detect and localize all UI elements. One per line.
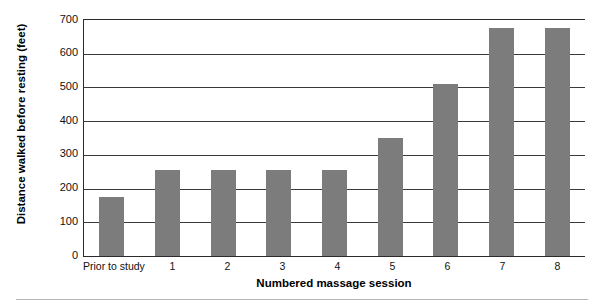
y-tick-label: 200 [30,182,78,193]
bar-slot [84,20,140,256]
x-tick-label: 1 [145,260,200,272]
bar [155,170,180,256]
y-tick-label: 600 [30,47,78,58]
bar-slot [140,20,196,256]
bottom-divider [16,299,588,300]
x-tick-label: Prior to study [83,260,145,272]
bar-series [84,20,585,256]
bar [433,84,458,256]
y-axis-title: Distance walked before resting (feet) [15,0,27,249]
x-tick-label: 5 [365,260,420,272]
x-tick-label: 8 [530,260,585,272]
bar [266,170,291,256]
x-axis-tick-labels: Prior to study12345678 [83,260,585,272]
y-axis-tick-labels: 0100200300400500600700 [30,0,78,306]
bar-slot [362,20,418,256]
x-tick-label: 6 [420,260,475,272]
x-tick-label: 2 [200,260,255,272]
bar [99,197,124,256]
y-tick-label: 300 [30,148,78,159]
bar [211,170,236,256]
bar-slot [529,20,585,256]
bar-chart-figure: Distance walked before resting (feet) 01… [0,0,602,306]
bar [378,138,403,256]
bar [322,170,347,256]
y-tick-label: 0 [30,250,78,261]
y-tick-label: 100 [30,216,78,227]
bar [545,28,570,256]
bar-slot [195,20,251,256]
x-tick-label: 7 [475,260,530,272]
bar-slot [418,20,474,256]
y-tick-label: 400 [30,115,78,126]
y-tick-label: 500 [30,81,78,92]
bar-slot [474,20,530,256]
bar-slot [307,20,363,256]
bar-slot [251,20,307,256]
x-axis-title: Numbered massage session [83,277,585,289]
y-tick-label: 700 [30,14,78,25]
x-tick-label: 4 [310,260,365,272]
bar [489,28,514,256]
x-tick-label: 3 [255,260,310,272]
plot-area [83,19,585,257]
